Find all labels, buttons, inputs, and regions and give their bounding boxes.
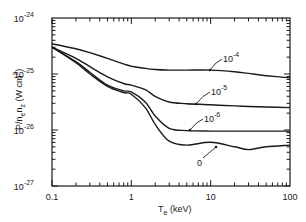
annotation-arrowhead xyxy=(209,69,212,72)
annotation-label-2: 10-6 xyxy=(204,111,220,124)
annotation-arrowhead xyxy=(215,146,218,149)
y-tick-label: 10-24 xyxy=(14,11,34,24)
annotation-label-3: 0 xyxy=(197,158,202,168)
curve-10m5 xyxy=(52,47,290,108)
annotation-label-1: 10-5 xyxy=(211,84,227,97)
y-tick-label: 10-27 xyxy=(14,179,34,192)
x-axis-title: Te (keV) xyxy=(158,204,191,216)
annotation-leader xyxy=(196,92,210,104)
curve-10m6 xyxy=(52,47,290,131)
x-tick-label: 100 xyxy=(282,192,297,202)
annotation-arrowhead xyxy=(189,129,192,132)
annotation-arrowhead xyxy=(195,103,198,106)
annotation-label-0: 10-4 xyxy=(223,51,239,64)
x-tick-label: 0.1 xyxy=(46,192,59,202)
y-axis-title: P/nenz (W cm3) xyxy=(12,69,26,130)
y-axis-ticks xyxy=(52,21,290,186)
curve-annotations: 10-410-510-60 xyxy=(189,51,240,168)
curve-0 xyxy=(52,47,290,150)
annotation-leader xyxy=(210,59,222,70)
radiation-loss-chart: 0.1110100 10-2410-2510-2610-27 10-410-51… xyxy=(0,0,306,222)
x-tick-label: 1 xyxy=(129,192,134,202)
x-tick-label: 10 xyxy=(206,192,216,202)
annotation-leader xyxy=(203,147,216,158)
annotation-leader xyxy=(190,119,203,130)
data-curves xyxy=(52,44,290,150)
x-axis-tick-labels: 0.1110100 xyxy=(46,192,298,202)
